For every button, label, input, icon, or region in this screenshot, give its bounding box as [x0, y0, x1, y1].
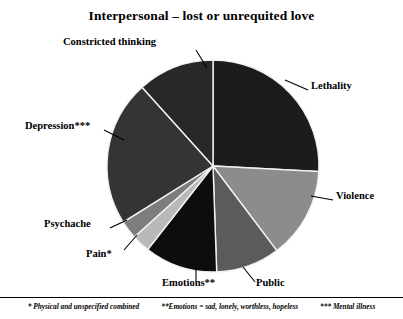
label-emotions: Emotions** [162, 277, 215, 288]
footnote-emotions: **Emotions = sad, lonely, worthless, hop… [161, 302, 298, 311]
pie-slice-group [107, 60, 319, 272]
leader-line-public [243, 267, 255, 282]
footnote-row: * Physical and unspecified combined **Em… [0, 302, 403, 311]
label-constricted-thinking: Constricted thinking [63, 36, 156, 47]
leader-line-lethality [285, 80, 308, 90]
pie-slice [213, 60, 319, 172]
label-psychache: Psychache [44, 218, 91, 229]
label-depression: Depression*** [25, 120, 90, 131]
label-lethality: Lethality [311, 80, 352, 91]
footnote-pain: * Physical and unspecified combined [28, 302, 139, 311]
footnote-depression: *** Mental illness [320, 302, 375, 311]
footnote-divider [0, 297, 403, 298]
pie-chart [0, 0, 403, 319]
label-public: Public [256, 277, 285, 288]
leader-line-pain [124, 235, 137, 250]
label-violence: Violence [336, 190, 374, 201]
label-pain: Pain* [86, 248, 112, 259]
chart-figure: Interpersonal – lost or unrequited love … [0, 0, 403, 319]
